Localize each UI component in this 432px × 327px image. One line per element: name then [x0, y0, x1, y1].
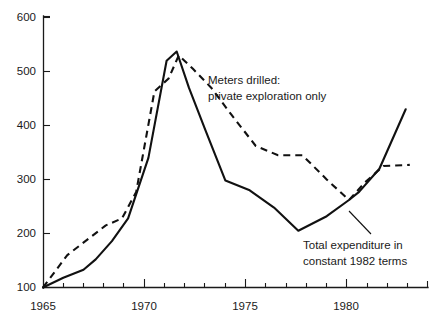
meters-drilled-line1: Meters drilled:: [208, 74, 280, 86]
y-tick-label-100: 100: [17, 281, 36, 293]
total-expenditure-line2: constant 1982 terms: [303, 255, 407, 267]
y-tick-label-400: 400: [17, 119, 36, 131]
x-tick-label-1975: 1975: [232, 300, 258, 312]
x-axis-minor-ticks: [64, 283, 408, 288]
line-chart: 100 200 300 400 500 600: [0, 0, 432, 327]
series-total-expenditure: [43, 52, 406, 288]
y-tick-label-600: 600: [17, 11, 36, 23]
meters-drilled-annotation: Meters drilled: private exploration only: [208, 74, 327, 102]
total-expenditure-leader-line: [349, 211, 371, 234]
y-tick-label-200: 200: [17, 227, 36, 239]
x-tick-label-1970: 1970: [131, 300, 157, 312]
x-tick-label-1965: 1965: [30, 300, 56, 312]
y-axis-ticks: [44, 18, 51, 288]
y-tick-label-300: 300: [17, 173, 36, 185]
meters-drilled-line2: private exploration only: [208, 90, 327, 102]
chart-figure: 100 200 300 400 500 600: [0, 0, 432, 327]
x-axis-major-ticks: [145, 279, 347, 288]
y-tick-label-500: 500: [17, 65, 36, 77]
total-expenditure-line1: Total expenditure in: [303, 239, 403, 251]
x-tick-label-1980: 1980: [333, 300, 359, 312]
